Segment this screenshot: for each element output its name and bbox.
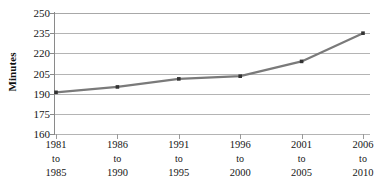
x-label-start-3: 1996 bbox=[210, 138, 270, 152]
data-point-2 bbox=[177, 77, 181, 81]
y-tick-label-205: 205 bbox=[22, 69, 50, 80]
y-axis-title-text: Minutes bbox=[6, 52, 18, 91]
x-label-start-4: 2001 bbox=[272, 138, 332, 152]
data-point-4 bbox=[300, 60, 304, 64]
x-label-connector-4: to bbox=[272, 152, 332, 166]
data-point-5 bbox=[361, 31, 365, 35]
y-tick-label-250: 250 bbox=[22, 8, 50, 19]
line-chart: Minutes 160175190205220235250 1981to1985… bbox=[0, 0, 389, 191]
y-axis-title: Minutes bbox=[0, 36, 24, 108]
data-point-0 bbox=[54, 91, 58, 95]
y-tick-label-220: 220 bbox=[22, 48, 50, 59]
gridline-160 bbox=[55, 134, 370, 135]
data-point-1 bbox=[116, 85, 120, 89]
x-tick-label-5: 2006to2010 bbox=[333, 138, 389, 180]
x-label-start-5: 2006 bbox=[333, 138, 389, 152]
x-label-end-0: 1985 bbox=[26, 166, 86, 180]
x-label-connector-1: to bbox=[87, 152, 147, 166]
x-tick-label-0: 1981to1985 bbox=[26, 138, 86, 180]
x-label-end-1: 1990 bbox=[87, 166, 147, 180]
data-point-3 bbox=[238, 74, 242, 78]
x-axis-tick-labels: 1981to19851986to19901991to19951996to2000… bbox=[0, 138, 389, 191]
x-label-end-2: 1995 bbox=[149, 166, 209, 180]
y-tick-label-175: 175 bbox=[22, 109, 50, 120]
x-label-connector-2: to bbox=[149, 152, 209, 166]
series-path bbox=[56, 33, 363, 92]
x-tick-label-3: 1996to2000 bbox=[210, 138, 270, 180]
x-tick-label-2: 1991to1995 bbox=[149, 138, 209, 180]
y-tick-label-190: 190 bbox=[22, 89, 50, 100]
x-tick-label-1: 1986to1990 bbox=[87, 138, 147, 180]
x-label-end-3: 2000 bbox=[210, 166, 270, 180]
x-tick-label-4: 2001to2005 bbox=[272, 138, 332, 180]
plot-area bbox=[55, 13, 370, 134]
x-label-connector-3: to bbox=[210, 152, 270, 166]
x-label-end-5: 2010 bbox=[333, 166, 389, 180]
series-line-minutes bbox=[55, 13, 370, 134]
y-tick-label-235: 235 bbox=[22, 28, 50, 39]
x-label-start-0: 1981 bbox=[26, 138, 86, 152]
x-label-connector-0: to bbox=[26, 152, 86, 166]
x-label-start-1: 1986 bbox=[87, 138, 147, 152]
x-label-end-4: 2005 bbox=[272, 166, 332, 180]
x-label-start-2: 1991 bbox=[149, 138, 209, 152]
x-label-connector-5: to bbox=[333, 152, 389, 166]
